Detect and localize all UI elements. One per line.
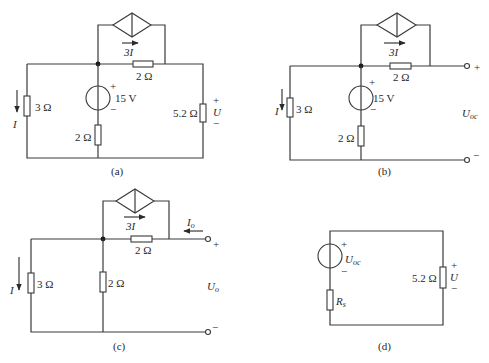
vsource-label: 15 V: [115, 92, 137, 104]
resistor-mid-b: [358, 126, 364, 146]
figure-d: + Uoc − Rs 5.2 Ω + U − (d): [318, 231, 459, 353]
caption-c: (c): [113, 340, 126, 353]
resistor-mid-a: [95, 125, 101, 145]
vs-minus: −: [341, 265, 347, 277]
terminal-minus: [206, 330, 211, 335]
figure-c: 3I 2 Ω Io + − Uo 3 Ω I 2 Ω (c): [9, 189, 219, 353]
dependent-current-source-icon: [377, 13, 416, 37]
io-label: Io: [186, 216, 195, 230]
out-voltage-label: Uoc: [462, 107, 478, 121]
resistor-top-label: 2 Ω: [135, 244, 151, 256]
caption-a: (a): [111, 165, 124, 178]
source-label: Uoc: [345, 253, 361, 267]
resistor-rs: [327, 290, 333, 310]
resistor-left-label: 3 Ω: [296, 103, 312, 115]
wire-loop-b: [290, 66, 464, 160]
dep-source-label: 3I: [125, 220, 137, 232]
resistor-load-d: [440, 267, 446, 288]
vs-minus: −: [110, 103, 116, 115]
resistor-top-a: [133, 61, 153, 67]
vs-plus: +: [110, 80, 116, 92]
dep-source-label: 3I: [388, 46, 400, 58]
caption-d: (d): [378, 340, 391, 353]
current-label: I: [12, 118, 18, 130]
resistor-mid-label: 2 Ω: [75, 131, 91, 143]
resistor-top-label: 2 Ω: [393, 71, 409, 83]
vsource-label: 15 V: [373, 92, 395, 104]
figure-a: 3I 2 Ω 3 Ω I + 15 V − 2 Ω 5.2 Ω + U − (a…: [12, 13, 222, 178]
out-minus: −: [451, 282, 457, 294]
current-label: I: [274, 105, 280, 117]
dep-source-label: 3I: [123, 46, 135, 58]
resistor-load-a: [200, 104, 206, 122]
resistor-load-label: 5.2 Ω: [412, 272, 437, 284]
dependent-current-source-icon: [113, 13, 151, 37]
out-plus: +: [451, 259, 457, 271]
dependent-current-source-icon: [116, 189, 154, 213]
out-plus: +: [213, 94, 219, 106]
resistor-left-c: [28, 273, 34, 293]
resistor-top-c: [131, 236, 152, 242]
terminal-plus: [465, 64, 470, 69]
resistor-top-label: 2 Ω: [136, 70, 152, 82]
resistor-left-label: 3 Ω: [35, 101, 51, 113]
term-plus-label: +: [213, 238, 219, 250]
resistor-left-b: [287, 98, 293, 117]
resistor-top-b: [390, 63, 411, 69]
circuit-diagrams: 3I 2 Ω 3 Ω I + 15 V − 2 Ω 5.2 Ω + U − (a…: [0, 0, 489, 363]
term-minus-label: −: [473, 149, 479, 161]
resistor-load-label: 5.2 Ω: [173, 107, 198, 119]
term-minus-label: −: [212, 321, 218, 333]
resistor-left-label: 3 Ω: [37, 278, 53, 290]
vs-plus: +: [341, 238, 347, 250]
terminal-plus: [206, 237, 211, 242]
resistor-left-a: [24, 96, 30, 116]
resistor-mid-label: 2 Ω: [338, 132, 354, 144]
out-voltage-label: Uo: [207, 280, 219, 294]
current-label: I: [9, 284, 15, 296]
figure-b: 3I 2 Ω + − Uoc 3 Ω I + 15 V − 2 Ω (b): [274, 13, 480, 178]
caption-b: (b): [378, 165, 391, 178]
term-plus-label: +: [474, 61, 480, 73]
resistor-mid-c: [100, 272, 106, 292]
terminal-minus: [465, 158, 470, 163]
vs-minus: −: [370, 103, 376, 115]
rs-label: Rs: [335, 295, 346, 309]
resistor-mid-label: 2 Ω: [108, 277, 124, 289]
vs-plus: +: [369, 76, 375, 88]
out-minus: −: [213, 117, 219, 129]
